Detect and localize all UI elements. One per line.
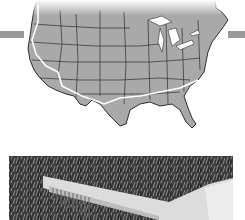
us-map — [0, 0, 245, 130]
comb-on-grass-photo — [9, 156, 233, 220]
